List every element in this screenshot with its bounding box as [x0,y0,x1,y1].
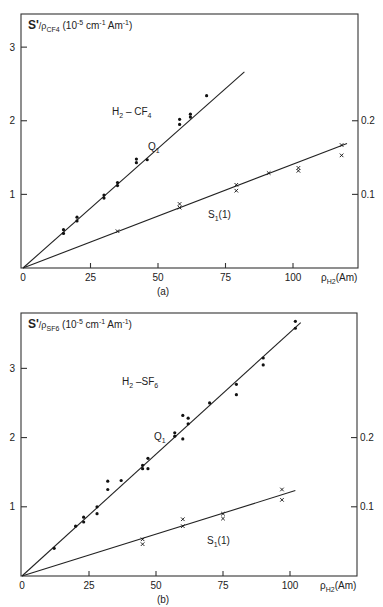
data-point [116,184,119,187]
data-point [106,488,109,491]
data-point [187,422,190,425]
data-point [189,115,192,118]
data-point [181,414,184,417]
data-point [280,498,284,502]
fit-line [22,491,295,576]
data-point [146,467,149,470]
data-point [141,542,145,546]
data-point [120,479,123,482]
data-point [178,123,181,126]
series-s1: S1(1) [22,488,295,576]
x-axis-title: ρH2(Am) [320,580,356,593]
series-label-tail: (1) [218,535,230,546]
data-point [62,232,65,235]
data-point [95,505,98,508]
data-point [75,219,78,222]
x-axis-title: ρH2(Am) [321,272,357,285]
y-title-units: ) [129,319,132,330]
data-point [235,189,239,193]
data-point [116,181,119,184]
system-label: H2 – CF4 [112,106,152,119]
data-point [340,154,344,158]
data-point [280,488,284,492]
system-label-part: H [112,106,119,117]
x-tick-label: 100 [282,580,299,591]
y-right-tick-label: 0.1 [361,189,375,200]
y-right-tick-label: 0.2 [361,115,375,126]
data-point [208,401,211,404]
data-point [178,118,181,121]
system-label-part: –SF [133,376,154,387]
data-point [205,94,208,97]
x-title-subscript: H2 [326,586,335,593]
data-point [82,516,85,519]
data-point [53,547,56,550]
x-tick-label: 0 [19,580,25,591]
y-title-rho: /ρ [39,320,47,330]
y-left-tick-label: 3 [9,363,15,374]
y-title-subscript: CF4 [46,26,59,33]
system-label-sub: 4 [148,112,152,119]
system-label-part: H [122,376,129,387]
plot-frame [21,313,357,576]
y-title-units: Am [106,20,123,31]
y-left-tick-label: 1 [9,501,15,512]
figure: 02550751001230.10.2S'/ρCF4 (10-5 cm-1 Am… [0,0,383,607]
y-right-tick-label: 0.2 [360,432,374,443]
y-axis-title: S'/ρSF6 (10-5 cm-1 Am-1) [28,317,132,332]
series-q1: Q1 [23,72,244,268]
y-title-units: ) [129,20,132,31]
x-title-units: (Am) [336,272,358,283]
data-point [294,320,297,323]
data-point [181,437,184,440]
series-label: S1(1) [207,535,230,548]
data-point [62,228,65,231]
x-tick-label: 25 [83,580,95,591]
data-point [102,196,105,199]
y-left-tick-label: 1 [9,189,15,200]
data-point [178,202,182,206]
system-label-part: – CF [123,106,147,117]
system-label-sub: 6 [154,382,158,389]
x-tick-label: 50 [150,580,162,591]
y-title-units: Am [105,319,122,330]
data-point [75,216,78,219]
y-axis-title: S'/ρCF4 (10-5 cm-1 Am-1) [28,18,132,33]
data-point [82,520,85,523]
y-title-symbol: S' [28,317,39,331]
data-point [141,467,144,470]
y-left-tick-label: 3 [9,42,15,53]
plot-a: 02550751001230.10.2S'/ρCF4 (10-5 cm-1 Am… [0,0,383,300]
data-point [297,166,301,170]
y-title-units: cm [83,20,99,31]
x-tick-label: 100 [285,272,302,283]
series-label: Q1 [154,431,166,444]
series-s1: S1(1) [23,143,347,268]
series-q1: Q1 [22,320,301,576]
data-point [181,517,185,521]
x-title-subscript: H2 [327,278,336,285]
y-title-units: (10 [59,319,77,330]
x-tick-label: 25 [85,272,97,283]
x-tick-label: 50 [152,272,164,283]
x-tick-label: 75 [217,580,229,591]
data-point [187,417,190,420]
data-point [146,457,149,460]
data-point [135,157,138,160]
data-point [102,194,105,197]
y-right-tick-label: 0.1 [360,501,374,512]
panel-label: (b) [157,594,169,605]
data-point [235,383,238,386]
x-title-units: (Am) [335,580,357,591]
data-point [106,480,109,483]
y-left-tick-label: 2 [9,432,15,443]
series-label-sub: 1 [156,147,160,154]
data-point [173,435,176,438]
data-point [235,393,238,396]
fit-line [23,72,244,268]
y-title-rho: /ρ [39,21,47,31]
plot-b: 02550751001230.10.2S'/ρSF6 (10-5 cm-1 Am… [0,300,383,607]
y-title-symbol: S' [28,18,39,32]
data-point [221,517,225,521]
y-title-units: cm [83,319,99,330]
